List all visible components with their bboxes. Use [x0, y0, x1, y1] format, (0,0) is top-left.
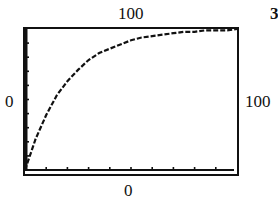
- plotted-curve: [25, 29, 237, 170]
- graph-screen: [0, 0, 278, 210]
- axis-ticks: [26, 43, 216, 170]
- viewing-window-frame: [24, 28, 238, 175]
